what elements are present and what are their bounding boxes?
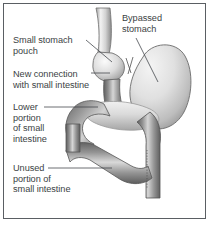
staple-line xyxy=(126,57,133,74)
label-unused-portion: Unused portion of small intestine xyxy=(13,163,70,195)
gastric-bypass-figure: Bypassed stomach Small stomach pouch New… xyxy=(0,0,212,225)
left-intestine-segment-shape xyxy=(66,124,80,152)
organ-group xyxy=(66,8,191,198)
esophagus-shape xyxy=(96,8,111,54)
label-small-stomach-pouch: Small stomach pouch xyxy=(13,35,73,56)
small-stomach-pouch-shape xyxy=(93,52,125,82)
label-new-connection: New connection with small intestine xyxy=(13,69,89,90)
efferent-limb-shape xyxy=(137,112,161,198)
label-bypassed-stomach: Bypassed stomach xyxy=(122,13,162,34)
label-lower-portion: Lower portion of small intestine xyxy=(13,102,47,144)
